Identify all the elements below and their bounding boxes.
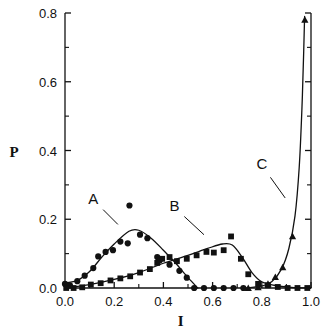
data-point-circle — [221, 285, 227, 291]
data-point-circle — [126, 202, 132, 208]
y-axis-tick-label: 0.6 — [39, 75, 57, 90]
data-point-circle — [191, 285, 197, 291]
data-point-square — [147, 266, 153, 272]
data-point-square — [228, 234, 234, 240]
data-point-square — [238, 256, 244, 262]
x-axis-tick-label: 0.2 — [105, 294, 123, 309]
data-point-square — [108, 278, 114, 284]
y-axis-tick-label: 0.0 — [39, 281, 57, 296]
data-point-circle — [137, 232, 143, 238]
data-point-square — [159, 256, 165, 262]
leader-line-C — [270, 177, 285, 198]
data-point-circle — [211, 285, 217, 291]
data-point-triangle — [279, 264, 286, 270]
data-point-circle — [144, 235, 150, 241]
data-point-square — [304, 285, 310, 291]
data-point-circle — [184, 275, 190, 281]
data-point-square — [295, 285, 301, 291]
x-axis-tick-label: 0.6 — [204, 294, 222, 309]
y-axis-title: P — [9, 144, 18, 160]
data-point-square — [137, 270, 143, 276]
data-point-square — [167, 254, 173, 260]
curve-label-B: B — [169, 197, 179, 214]
leader-line-B — [184, 217, 204, 235]
leader-line-A — [103, 210, 118, 225]
data-point-square — [63, 285, 69, 291]
data-point-square — [204, 249, 210, 255]
data-point-square — [275, 284, 281, 290]
series-A — [62, 202, 247, 291]
y-axis-tick-label: 0.8 — [39, 6, 57, 21]
data-point-square — [245, 271, 251, 277]
series-C — [245, 16, 309, 291]
data-point-circle — [110, 247, 116, 253]
data-point-square — [174, 258, 180, 264]
data-point-square — [79, 284, 85, 290]
x-axis-tick-label: 0.4 — [154, 294, 172, 309]
data-point-square — [71, 285, 77, 291]
data-point-square — [285, 285, 291, 291]
data-point-square — [194, 252, 200, 258]
chart-canvas: 0.00.20.40.60.80.00.20.40.60.81.0PIABC — [0, 0, 323, 336]
data-point-square — [211, 250, 217, 256]
data-point-circle — [176, 268, 182, 274]
axes-group — [65, 13, 311, 288]
data-point-square — [117, 275, 123, 281]
data-point-circle — [230, 285, 236, 291]
y-axis-tick-label: 0.2 — [39, 212, 57, 227]
x-axis-tick-label: 0.0 — [56, 294, 74, 309]
data-point-square — [184, 256, 190, 262]
data-point-triangle — [289, 233, 296, 239]
data-point-square — [88, 282, 94, 288]
data-point-circle — [74, 278, 80, 284]
x-axis-tick-label: 1.0 — [302, 294, 320, 309]
curve-C — [247, 16, 305, 288]
data-point-circle — [90, 265, 96, 271]
data-point-circle — [117, 238, 123, 244]
data-point-square — [98, 280, 104, 286]
data-point-circle — [95, 253, 101, 259]
data-point-square — [127, 273, 133, 279]
figure-chart: 0.00.20.40.60.80.00.20.40.60.81.0PIABC — [0, 0, 323, 336]
data-point-square — [221, 247, 227, 253]
series-group — [62, 16, 311, 291]
y-axis-tick-label: 0.4 — [39, 144, 57, 159]
curve-label-C: C — [256, 155, 267, 172]
data-point-triangle — [301, 16, 308, 22]
data-point-circle — [125, 240, 131, 246]
curve-label-A: A — [88, 190, 98, 207]
series-B — [63, 234, 311, 291]
data-point-circle — [82, 273, 88, 279]
data-point-circle — [102, 249, 108, 255]
x-axis-title: I — [178, 313, 184, 329]
data-point-circle — [201, 285, 207, 291]
x-axis-tick-label: 0.8 — [253, 294, 271, 309]
